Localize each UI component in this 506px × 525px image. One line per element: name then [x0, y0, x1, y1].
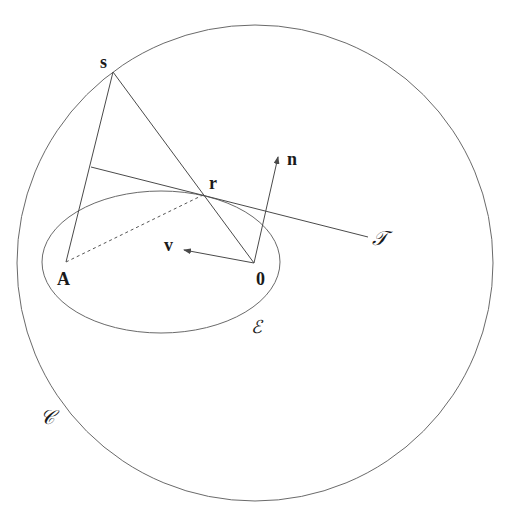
circle-c [17, 25, 493, 501]
line-s-to-origin [113, 72, 254, 263]
label-tangent-t: 𝒯 [372, 226, 394, 250]
normal-vector-n [254, 157, 278, 263]
ellipse-e [42, 191, 280, 333]
label-circle-c: 𝒞 [40, 405, 60, 429]
label-origin: 0 [256, 269, 265, 289]
label-a: A [57, 269, 70, 289]
label-ellipse-e: ℰ [251, 316, 264, 337]
label-v: v [164, 235, 173, 255]
label-s: s [100, 52, 107, 72]
geometry-diagram: s r n v A 0 𝒯 ℰ 𝒞 [0, 0, 506, 525]
line-s-to-a [66, 72, 113, 262]
label-r: r [209, 173, 217, 193]
tangent-line-t [91, 167, 368, 237]
label-n: n [287, 149, 297, 169]
vector-v [184, 250, 254, 263]
dashed-line-a-to-r [66, 195, 203, 262]
